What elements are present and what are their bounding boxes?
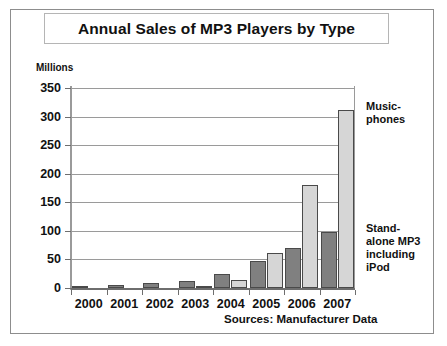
chart-title-box: Annual Sales of MP3 Players by Type <box>44 13 389 44</box>
bar-group <box>71 88 107 288</box>
x-axis-tick <box>178 290 179 295</box>
bar <box>179 281 195 288</box>
bar <box>250 261 266 288</box>
annotation-music-phones: Music- phones <box>366 100 436 126</box>
annotation-music-phones-line2: phones <box>366 113 436 126</box>
x-axis-tick <box>71 290 72 295</box>
x-axis-tick <box>142 290 143 295</box>
bar-group <box>178 88 214 288</box>
page-title: Annual Sales of MP3 Players by Type <box>78 20 355 38</box>
annotation-stand-alone-line2: alone MP3 <box>366 235 436 248</box>
y-axis-tick-label: 200 <box>19 168 61 181</box>
y-axis-tick-label: 250 <box>19 139 61 152</box>
y-axis-tick-label: 150 <box>19 196 61 209</box>
y-axis-tick-label: 100 <box>19 225 61 238</box>
bar <box>267 253 283 288</box>
x-axis-tick <box>213 290 214 295</box>
y-axis-tick-label: 50 <box>19 253 61 266</box>
chart-figure: Annual Sales of MP3 Players by Type Mill… <box>0 0 447 346</box>
bar-group <box>284 88 320 288</box>
y-axis-tick-label: 350 <box>19 82 61 95</box>
plot-area <box>71 88 355 288</box>
annotation-stand-alone-mp3: Stand- alone MP3 including iPod <box>366 222 436 274</box>
x-axis-tick <box>355 290 356 295</box>
bar-group <box>107 88 143 288</box>
annotation-stand-alone-line3: including <box>366 248 436 261</box>
bar <box>321 232 337 288</box>
bar <box>302 185 318 288</box>
bar <box>285 248 301 288</box>
annotation-stand-alone-line4: iPod <box>366 261 436 274</box>
annotation-music-phones-line1: Music- <box>366 100 436 113</box>
bar-group <box>249 88 285 288</box>
bar <box>231 280 247 288</box>
bar-group <box>142 88 178 288</box>
x-axis-tick <box>249 290 250 295</box>
y-axis-tick-label: 300 <box>19 111 61 124</box>
bar <box>214 274 230 288</box>
y-axis-unit-label: Millions <box>36 62 73 73</box>
x-axis-tick <box>107 290 108 295</box>
x-axis-tick <box>284 290 285 295</box>
annotation-stand-alone-line1: Stand- <box>366 222 436 235</box>
x-axis-tick-label: 2007 <box>315 297 359 311</box>
bar-group <box>213 88 249 288</box>
x-axis-tick <box>320 290 321 295</box>
bar <box>338 110 354 288</box>
source-note: Sources: Manufacturer Data <box>224 313 377 325</box>
bar-group <box>320 88 356 288</box>
y-axis-tick-label: 0 <box>19 282 61 295</box>
